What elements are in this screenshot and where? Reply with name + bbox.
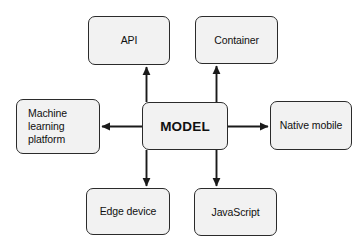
- node-machine-learning-platform[interactable]: Machine learning platform: [16, 99, 100, 154]
- node-api-label: API: [121, 34, 138, 47]
- node-api[interactable]: API: [88, 16, 170, 65]
- node-container-label: Container: [214, 34, 259, 47]
- node-native-mobile-label: Native mobile: [280, 119, 342, 132]
- node-javascript[interactable]: JavaScript: [194, 188, 277, 236]
- node-machine-learning-platform-label: Machine learning platform: [17, 107, 67, 146]
- node-container[interactable]: Container: [195, 16, 278, 64]
- diagram-canvas: API Container Machine learning platform …: [0, 0, 362, 245]
- node-model-label: MODEL: [160, 120, 210, 133]
- node-javascript-label: JavaScript: [211, 206, 259, 219]
- node-model[interactable]: MODEL: [142, 102, 228, 150]
- node-native-mobile[interactable]: Native mobile: [270, 101, 352, 150]
- node-edge-device-label: Edge device: [100, 205, 157, 218]
- node-edge-device[interactable]: Edge device: [86, 188, 170, 235]
